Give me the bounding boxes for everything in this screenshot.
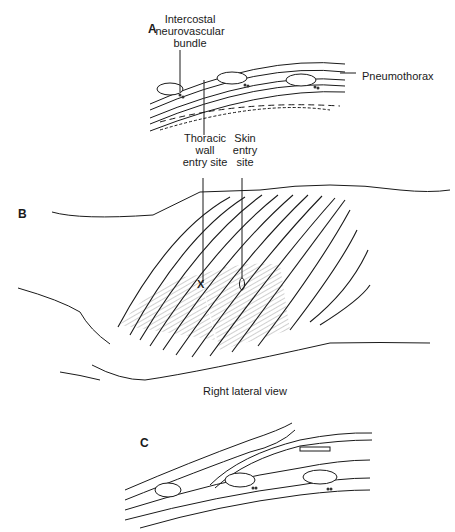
panel-b-rib-cage bbox=[18, 178, 450, 380]
panel-a-cross-section bbox=[150, 50, 356, 135]
chest-tube-diagram bbox=[0, 0, 455, 532]
panel-c-tube-insertion bbox=[125, 423, 372, 528]
